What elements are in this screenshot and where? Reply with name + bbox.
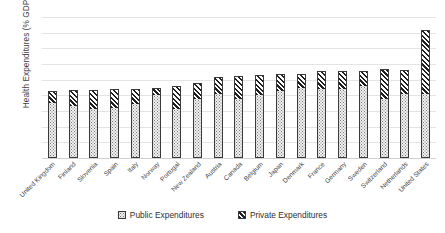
bar-segment-private[interactable] [255,75,264,95]
bar-stack[interactable] [110,89,119,158]
bar-stack[interactable] [172,86,181,158]
bar-stack[interactable] [421,30,430,158]
bar-segment-public[interactable] [214,94,223,158]
x-label-slot: Denmark [291,159,312,203]
bar-slot [353,17,374,158]
bar-stack[interactable] [214,77,223,158]
bar-segment-private[interactable] [421,30,430,94]
legend-item-public[interactable]: Public Expenditures [118,210,204,220]
bar-segment-public[interactable] [110,108,119,158]
x-axis-tick-labels: United KingdomFinlandSloveniaSpainItalyN… [42,159,436,203]
bar-stack[interactable] [359,71,368,158]
legend-item-private[interactable]: Private Expenditures [238,210,327,220]
bar-slot [270,17,291,158]
legend-label: Public Expenditures [130,210,204,220]
bar-segment-public[interactable] [255,95,264,158]
bar-segment-private[interactable] [338,71,347,89]
bar-stack[interactable] [297,74,306,158]
bar-segment-public[interactable] [359,86,368,158]
bar-segment-public[interactable] [131,104,140,158]
bar-segment-private[interactable] [172,86,181,110]
bar-slot [374,17,395,158]
x-label-slot: Belgium [249,159,270,203]
bar-segment-public[interactable] [89,109,98,158]
bar-segment-public[interactable] [317,89,326,158]
bar-slot [125,17,146,158]
bar-slot [187,17,208,158]
bar-slot [332,17,353,158]
bar-segment-private[interactable] [152,88,161,96]
x-label-slot: United States [415,159,436,203]
bar-segment-private[interactable] [110,89,119,108]
chart-legend: Public ExpendituresPrivate Expenditures [0,210,445,220]
legend-label: Private Expenditures [250,210,327,220]
bar-segment-private[interactable] [89,90,98,109]
x-label-slot: New Zealand [187,159,208,203]
plot-area: 181614121086420 [42,17,436,158]
legend-swatch-public-icon [118,211,126,219]
bar-segment-public[interactable] [193,99,202,158]
x-label-slot: Spain [104,159,125,203]
x-axis-tick-label: Italy [127,161,140,174]
bar-segment-public[interactable] [152,95,161,158]
legend-swatch-private-icon [238,211,246,219]
bar-slot [42,17,63,158]
bar-slot [415,17,436,158]
bar-slot [229,17,250,158]
bar-segment-private[interactable] [276,74,285,91]
bar-segment-private[interactable] [69,90,78,106]
bar-stack[interactable] [48,91,57,158]
bar-stack[interactable] [89,90,98,158]
bar-segment-public[interactable] [380,99,389,158]
bar-segment-private[interactable] [359,71,368,86]
bar-segment-public[interactable] [400,94,409,158]
bar-segment-private[interactable] [400,70,409,94]
bar-slot [166,17,187,158]
bar-segment-private[interactable] [297,74,306,88]
bar-stack[interactable] [338,71,347,158]
bar-stack[interactable] [131,89,140,158]
bar-segment-public[interactable] [48,103,57,158]
bar-stack[interactable] [276,74,285,158]
bar-stack[interactable] [317,71,326,158]
bar-slot [291,17,312,158]
bar-stack[interactable] [152,88,161,158]
bar-slot [312,17,333,158]
bar-stack[interactable] [234,76,243,158]
bar-stack[interactable] [380,69,389,158]
x-axis-tick-label: United Kingdom [19,161,57,199]
bar-segment-public[interactable] [276,91,285,158]
bar-segment-private[interactable] [193,83,202,99]
bar-segment-private[interactable] [234,76,243,100]
bar-segment-private[interactable] [131,89,140,104]
x-axis-tick-label: Japan [268,161,285,178]
bar-segment-private[interactable] [380,69,389,99]
x-label-slot: Italy [125,159,146,203]
bar-stack[interactable] [193,83,202,158]
bar-segment-private[interactable] [214,77,223,94]
bar-stack[interactable] [400,70,409,158]
y-axis-title: Health Expenditures (% GDP) [22,0,31,123]
bar-segment-private[interactable] [317,71,326,89]
bar-slot [83,17,104,158]
x-label-slot: Slovenia [83,159,104,203]
bar-segment-public[interactable] [69,106,78,158]
bars-layer [42,17,436,158]
bar-slot [208,17,229,158]
x-axis-tick-label: Spain [103,161,120,178]
bar-segment-public[interactable] [421,94,430,158]
bar-stack[interactable] [69,90,78,158]
bar-slot [104,17,125,158]
bar-slot [394,17,415,158]
x-label-slot: United Kingdom [42,159,63,203]
bar-slot [249,17,270,158]
health-expenditures-chart: Health Expenditures (% GDP) 181614121086… [0,0,445,233]
bar-segment-public[interactable] [172,109,181,158]
bar-segment-private[interactable] [48,91,57,104]
bar-slot [146,17,167,158]
bar-segment-public[interactable] [234,99,243,158]
bar-segment-public[interactable] [297,88,306,158]
bar-slot [63,17,84,158]
bar-segment-public[interactable] [338,89,347,158]
bar-stack[interactable] [255,75,264,158]
